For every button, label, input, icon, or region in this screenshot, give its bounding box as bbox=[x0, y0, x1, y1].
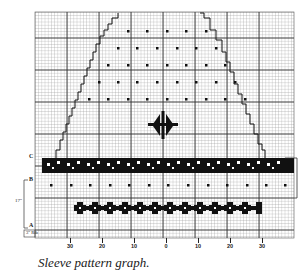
band-c bbox=[42, 158, 294, 173]
row-marker-b: B bbox=[29, 176, 33, 182]
axis-label: 20 bbox=[227, 243, 233, 249]
axis-label: 0 bbox=[164, 243, 167, 249]
axis-label: 30 bbox=[67, 243, 73, 249]
ab-bracket bbox=[24, 180, 28, 228]
figure-caption: Sleeve pattern graph. bbox=[38, 255, 150, 271]
axis-label: 10 bbox=[131, 243, 137, 249]
axis-label: 20 bbox=[99, 243, 105, 249]
rib-span-label: 3" Rib bbox=[26, 230, 38, 235]
row-marker-a: A bbox=[29, 222, 33, 228]
axis-label: 10 bbox=[195, 243, 201, 249]
ab-span-label: 17" bbox=[15, 198, 22, 203]
row-marker-c: C bbox=[29, 153, 33, 159]
axis-label: 30 bbox=[259, 243, 265, 249]
